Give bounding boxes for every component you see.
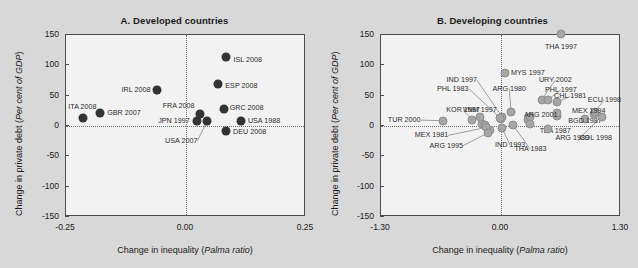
point-label: CHL 1981 xyxy=(554,93,586,100)
data-point xyxy=(79,114,88,123)
data-point xyxy=(220,104,229,113)
data-point xyxy=(203,116,212,125)
data-point xyxy=(556,30,565,39)
data-point xyxy=(526,120,535,129)
y-tick-mark xyxy=(65,95,69,96)
y-tick-label: 0 xyxy=(54,120,59,130)
data-point xyxy=(507,107,516,116)
panel-b-x-axis-title-tail: ) xyxy=(565,245,568,255)
y-tick-label: 100 xyxy=(45,59,59,69)
data-point xyxy=(500,69,509,78)
panel-b-title: B. Developing countries xyxy=(319,15,638,26)
y-tick-mark xyxy=(65,125,69,126)
panel-b-x-axis-title-plain: Change in inequality ( xyxy=(432,245,519,255)
panel-a-y-axis-title: Change in private debt (Per cent of GDP) xyxy=(14,51,24,216)
y-tick-mark xyxy=(380,125,384,126)
y-tick-mark xyxy=(380,186,384,187)
data-point xyxy=(214,80,223,89)
zero-line-horizontal xyxy=(66,126,304,127)
point-label: ARG 1989 xyxy=(555,135,589,142)
y-tick-mark xyxy=(380,95,384,96)
data-point xyxy=(597,112,606,121)
point-label: DEU 2008 xyxy=(233,129,266,136)
point-label: IRL 2008 xyxy=(122,86,151,93)
y-tick-label: -150 xyxy=(42,211,59,221)
x-tick-label: 0.00 xyxy=(177,222,194,232)
point-label: URY 2002 xyxy=(539,76,572,83)
figure-root: A. Developed countries Change in private… xyxy=(0,0,638,268)
data-point xyxy=(497,124,506,133)
y-tick-mark xyxy=(380,155,384,156)
data-point xyxy=(222,127,231,136)
data-point xyxy=(484,128,493,137)
data-point xyxy=(237,117,246,126)
panel-a-x-axis-title-plain: Change in inequality ( xyxy=(117,245,204,255)
panel-developing-countries: B. Developing countries Change in privat… xyxy=(319,0,638,268)
data-point xyxy=(508,121,517,130)
y-tick-mark xyxy=(380,64,384,65)
y-tick-mark xyxy=(65,186,69,187)
y-tick-label: -50 xyxy=(362,150,374,160)
point-label: THA 1997 xyxy=(545,44,577,51)
point-label: ESP 2008 xyxy=(225,83,257,90)
y-tick-label: -150 xyxy=(357,211,374,221)
x-tick-label: -1.30 xyxy=(370,222,389,232)
point-label: ECU 1998 xyxy=(588,96,621,103)
x-tick-label: 1.30 xyxy=(612,222,629,232)
point-label: ARG 2001 xyxy=(524,111,558,118)
data-point xyxy=(193,116,202,125)
point-label: ARG 1980 xyxy=(492,85,526,92)
y-tick-label: 50 xyxy=(50,90,59,100)
point-label: GBR 2007 xyxy=(107,110,141,117)
y-tick-mark xyxy=(65,34,69,35)
data-point xyxy=(222,53,231,62)
data-point xyxy=(153,85,162,94)
y-tick-label: -100 xyxy=(42,181,59,191)
data-point xyxy=(95,109,104,118)
y-tick-mark xyxy=(380,216,384,217)
y-tick-label: 150 xyxy=(360,29,374,39)
point-label: FRA 2008 xyxy=(163,103,195,110)
data-point xyxy=(544,95,553,104)
point-label: ISL 2008 xyxy=(233,56,262,63)
panel-a-x-axis-title: Change in inequality (Palma ratio) xyxy=(65,245,305,255)
y-tick-label: -50 xyxy=(47,150,59,160)
panel-b-y-axis-title: Change in private debt (Per cent of GDP) xyxy=(330,51,340,216)
panel-a-y-axis-title-tail: ) xyxy=(14,51,24,54)
point-label: THA 1983 xyxy=(514,146,546,153)
point-label: ITA 2008 xyxy=(68,103,96,110)
x-tick-label: 0.00 xyxy=(492,222,509,232)
y-tick-mark xyxy=(65,155,69,156)
point-label: GRC 2008 xyxy=(230,104,264,111)
panel-b-y-axis-title-italic: Per cent of GDP xyxy=(330,54,340,120)
y-tick-label: 150 xyxy=(45,29,59,39)
y-tick-label: 0 xyxy=(369,120,374,130)
panel-b-x-axis-title: Change in inequality (Palma ratio) xyxy=(380,245,620,255)
panel-a-y-axis-title-plain: Change in private debt ( xyxy=(14,120,24,216)
y-tick-label: 50 xyxy=(365,90,374,100)
panel-b-x-axis-title-italic: Palma ratio xyxy=(519,245,565,255)
x-tick-label: -0.25 xyxy=(55,222,74,232)
y-tick-mark xyxy=(380,34,384,35)
point-label: IND 1997 xyxy=(447,76,477,83)
y-tick-mark xyxy=(65,216,69,217)
panel-a-y-axis-title-italic: Per cent of GDP xyxy=(14,54,24,120)
y-tick-label: 100 xyxy=(360,59,374,69)
panel-a-title: A. Developed countries xyxy=(0,15,319,26)
y-tick-mark xyxy=(65,64,69,65)
point-label: ARG 1995 xyxy=(430,142,464,149)
point-label: USA 2007 xyxy=(165,137,197,144)
data-point xyxy=(438,116,447,125)
data-point xyxy=(544,124,553,133)
point-label: MEX 1981 xyxy=(415,132,449,139)
y-tick-label: -100 xyxy=(357,181,374,191)
point-label: USA 1988 xyxy=(248,118,280,125)
point-label: TUR 2000 xyxy=(388,117,421,124)
data-point xyxy=(496,113,505,122)
panel-b-y-axis-title-plain: Change in private debt ( xyxy=(330,120,340,216)
panel-b-y-axis-title-tail: ) xyxy=(330,51,340,54)
panel-developed-countries: A. Developed countries Change in private… xyxy=(0,0,319,268)
x-tick-label: 0.25 xyxy=(297,222,314,232)
point-label: PHL 1983 xyxy=(437,85,469,92)
panel-a-x-axis-title-tail: ) xyxy=(250,245,253,255)
